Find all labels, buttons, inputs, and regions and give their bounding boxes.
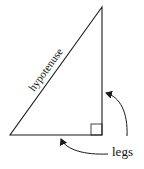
right-triangle-diagram: hypotenuse legs bbox=[0, 0, 144, 169]
triangle bbox=[10, 7, 102, 135]
arrow-to-vertical-leg bbox=[106, 93, 127, 136]
legs-label: legs bbox=[112, 144, 133, 159]
arrow-to-horizontal-leg bbox=[61, 139, 108, 154]
right-angle-marker bbox=[91, 124, 102, 135]
